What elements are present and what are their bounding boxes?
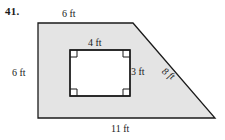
dimension-label-inner-right: 3 ft (131, 67, 145, 77)
right-angle-mark-top-left (70, 50, 77, 57)
geometry-figure (0, 0, 225, 140)
right-angle-mark-bottom-right (123, 89, 130, 96)
inner-rectangle-outline (70, 50, 130, 96)
dimension-label-top: 6 ft (62, 9, 76, 19)
dimension-label-left: 6 ft (12, 68, 26, 78)
right-angle-mark-top-right (123, 50, 130, 57)
right-angle-mark-bottom-left (70, 89, 77, 96)
dimension-label-bottom: 11 ft (111, 124, 129, 134)
figure-page: 41. 6 ft 6 ft 4 ft 3 ft 8 ft 11 ft (0, 0, 225, 140)
composite-shape-path (38, 23, 215, 118)
dimension-label-inner-top: 4 ft (88, 38, 102, 48)
